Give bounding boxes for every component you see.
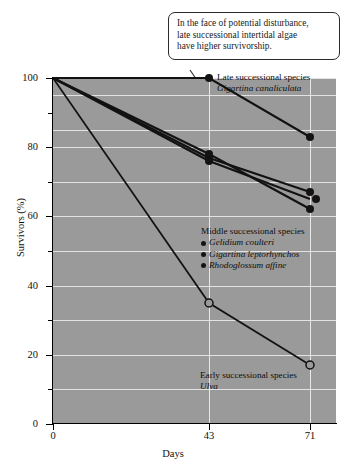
legend-item-rhodoglossum-affine: Rhodoglossum affine — [201, 260, 305, 271]
y-tick-20 — [46, 355, 52, 356]
filled-circle-icon — [201, 263, 206, 268]
plot-area: Late successional species Gigartina cana… — [53, 78, 336, 424]
x-tick-label-71: 71 — [295, 430, 325, 441]
x-axis-line — [52, 423, 337, 424]
data-point-marker — [205, 299, 213, 307]
legend-item-gelidium-coulteri: Gelidium coulteri — [201, 237, 305, 248]
series-gelidium-coulteri — [53, 78, 314, 196]
series-line — [53, 78, 310, 365]
y-tick-80 — [46, 147, 52, 148]
y-tick-label-20: 20 — [8, 349, 38, 360]
x-tick-label-43: 43 — [194, 430, 224, 441]
y-tick-10 — [48, 389, 52, 390]
y-tick-label-0: 0 — [8, 418, 38, 429]
late-successional-title: Late successional species — [217, 72, 310, 83]
data-point-marker — [306, 361, 314, 369]
data-point-marker — [306, 188, 314, 196]
y-axis-line — [52, 77, 53, 425]
y-tick-0 — [46, 424, 52, 425]
annotation-middle-successional: Middle successional species Gelidium cou… — [201, 226, 305, 272]
data-point-marker — [205, 150, 213, 158]
y-tick-60 — [46, 216, 52, 217]
late-successional-species: Gigartina canaliculata — [217, 83, 310, 94]
annotation-early-successional: Early successional species Ulva — [200, 370, 297, 393]
annotation-late-successional: Late successional species Gigartina cana… — [217, 72, 310, 95]
legend-item-gigartina-leptorhynchos: Gigartina leptorhynchos — [201, 249, 305, 260]
data-point-marker — [306, 205, 314, 213]
y-tick-40 — [46, 286, 52, 287]
x-axis-title: Days — [0, 448, 346, 459]
y-tick-30 — [48, 320, 52, 321]
data-point-marker — [205, 157, 213, 165]
x-tick-label-0: 0 — [38, 430, 68, 441]
y-tick-label-100: 100 — [8, 72, 38, 83]
figure-root: In the face of potential disturbance, la… — [0, 0, 346, 471]
early-successional-species: Ulva — [200, 381, 297, 392]
early-successional-title: Early successional species — [200, 370, 297, 381]
y-tick-50 — [48, 251, 52, 252]
y-tick-90 — [48, 113, 52, 114]
y-tick-70 — [48, 182, 52, 183]
data-point-marker — [306, 133, 314, 141]
legend-label: Rhodoglossum affine — [209, 260, 286, 271]
y-tick-100 — [46, 78, 52, 79]
legend-label: Gelidium coulteri — [209, 237, 274, 248]
legend-label: Gigartina leptorhynchos — [209, 249, 299, 260]
middle-successional-title: Middle successional species — [201, 226, 305, 237]
series-ulva — [53, 78, 314, 369]
filled-circle-icon — [201, 252, 206, 257]
y-axis-title: Survivors (%) — [15, 148, 26, 308]
data-point-marker — [312, 195, 320, 203]
data-point-marker — [205, 74, 213, 82]
filled-circle-icon — [201, 241, 206, 246]
